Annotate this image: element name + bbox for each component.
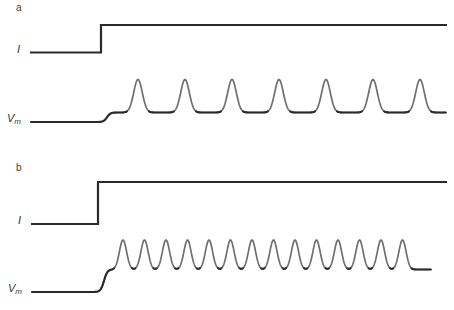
current-trace-label-a: I (17, 44, 20, 55)
voltage-label-sub-b: m (15, 287, 22, 296)
voltage-trace-label-b: Vm (8, 283, 22, 294)
spike-train-figure: a I Vm b I Vm (0, 0, 454, 310)
trace-canvas (0, 0, 454, 310)
panel-a-label: a (16, 3, 22, 13)
current-trace-label-b: I (18, 215, 21, 226)
panel-b-label: b (16, 163, 22, 173)
voltage-label-sub-a: m (14, 117, 21, 126)
voltage-trace-label-a: Vm (7, 113, 21, 124)
